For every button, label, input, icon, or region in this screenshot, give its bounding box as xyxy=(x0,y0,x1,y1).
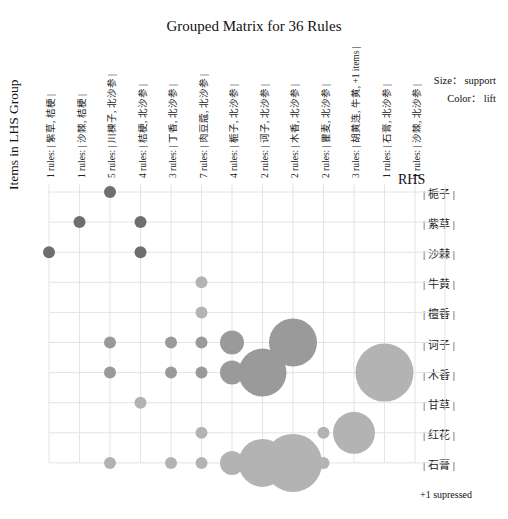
rule-bubble xyxy=(239,439,287,487)
rule-bubble xyxy=(356,344,414,402)
rule-bubble xyxy=(104,457,116,469)
bubbles xyxy=(43,186,414,492)
rule-bubble xyxy=(196,337,208,349)
rule-bubble xyxy=(135,397,147,409)
rule-bubble xyxy=(239,349,287,397)
rule-bubble xyxy=(165,457,177,469)
rule-bubble xyxy=(220,331,244,355)
rule-bubble xyxy=(74,216,86,228)
rule-bubble xyxy=(135,216,147,228)
rule-bubble xyxy=(220,451,244,475)
rule-bubble xyxy=(135,246,147,258)
rule-bubble xyxy=(196,427,208,439)
rule-bubble xyxy=(196,457,208,469)
rule-bubble xyxy=(196,367,208,379)
suppressed-note: +1 supressed xyxy=(420,489,472,500)
rule-bubble xyxy=(104,367,116,379)
rule-bubble xyxy=(220,361,244,385)
grid-lines xyxy=(49,184,445,463)
rule-bubble xyxy=(196,306,208,318)
rule-bubble xyxy=(104,337,116,349)
rule-bubble xyxy=(333,412,375,454)
rule-bubble xyxy=(318,457,330,469)
bubble-matrix-plot xyxy=(0,0,508,519)
rule-bubble xyxy=(318,427,330,439)
rule-bubble xyxy=(165,337,177,349)
rule-bubble xyxy=(104,186,116,198)
rule-bubble xyxy=(43,246,55,258)
rule-bubble xyxy=(196,276,208,288)
rule-bubble xyxy=(165,367,177,379)
